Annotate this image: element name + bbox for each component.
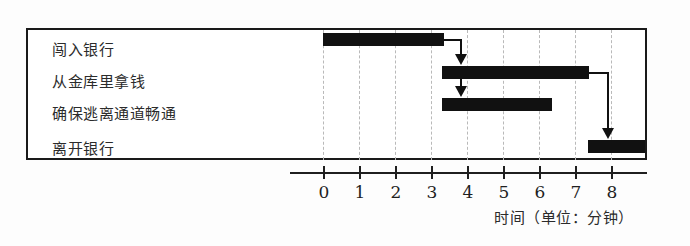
gantt-chart-figure: 闯入银行 从金库里拿钱 确保逃离通道畅通 离开银行 012345678 时间（单… xyxy=(0,0,690,246)
x-tick-8 xyxy=(611,166,613,179)
connector-v-0b xyxy=(460,73,462,88)
x-tick-label-5: 5 xyxy=(494,182,514,202)
gridline-4 xyxy=(467,30,468,160)
gridline-7 xyxy=(575,30,576,160)
x-tick-label-1: 1 xyxy=(350,182,370,202)
gridline-0 xyxy=(323,30,324,160)
gridline-5 xyxy=(503,30,504,160)
x-tick-3 xyxy=(431,166,433,179)
gridline-6 xyxy=(539,30,540,160)
gantt-bar-1 xyxy=(442,66,590,79)
connector-arrow-to-task3 xyxy=(602,128,614,139)
gridline-2 xyxy=(395,30,396,160)
gantt-bar-0 xyxy=(323,33,444,46)
gantt-bar-2 xyxy=(442,98,552,111)
x-tick-label-0: 0 xyxy=(314,182,334,202)
task-label-2: 确保逃离通道畅通 xyxy=(52,98,176,130)
x-axis-title: 时间（单位：分钟） xyxy=(494,206,634,227)
connector-v-1 xyxy=(607,73,609,130)
gridline-1 xyxy=(359,30,360,160)
x-tick-label-8: 8 xyxy=(602,182,622,202)
x-tick-2 xyxy=(395,166,397,179)
x-tick-label-4: 4 xyxy=(458,182,478,202)
connector-h-1 xyxy=(589,72,609,74)
x-tick-6 xyxy=(539,166,541,179)
x-tick-label-3: 3 xyxy=(422,182,442,202)
connector-arrow-to-task2 xyxy=(455,86,467,97)
task-label-column: 闯入银行 从金库里拿钱 确保逃离通道畅通 离开银行 xyxy=(52,30,312,158)
gantt-bar-3 xyxy=(588,140,646,153)
connector-arrow-to-task1 xyxy=(455,54,467,65)
task-label-3: 离开银行 xyxy=(52,133,114,165)
gridline-3 xyxy=(431,30,432,160)
task-label-0: 闯入银行 xyxy=(52,34,114,66)
x-tick-5 xyxy=(503,166,505,179)
x-tick-7 xyxy=(575,166,577,179)
x-tick-label-2: 2 xyxy=(386,182,406,202)
x-tick-label-7: 7 xyxy=(566,182,586,202)
connector-v-0a xyxy=(460,40,462,56)
plot-area xyxy=(323,30,647,160)
x-tick-0 xyxy=(323,166,325,179)
x-tick-label-6: 6 xyxy=(530,182,550,202)
x-tick-1 xyxy=(359,166,361,179)
x-tick-4 xyxy=(467,166,469,179)
task-label-1: 从金库里拿钱 xyxy=(52,66,145,98)
